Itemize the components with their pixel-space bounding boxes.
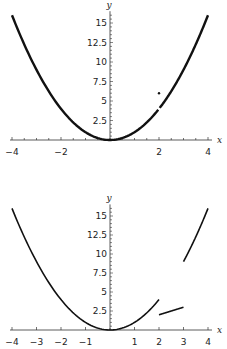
chart-top-parabola-with-hole: −4−224x2.557.51012.515y xyxy=(5,0,222,157)
x-tick-label: −1 xyxy=(79,337,92,347)
x-tick-label: 3 xyxy=(181,337,187,347)
x-tick-label: 2 xyxy=(156,337,162,347)
function-curve xyxy=(184,208,209,261)
x-tick-label: 4 xyxy=(205,147,211,157)
isolated-point xyxy=(158,92,160,94)
x-tick-label: 1 xyxy=(132,337,138,347)
y-tick-label: 2.5 xyxy=(93,306,107,316)
x-tick-label: 2 xyxy=(156,147,162,157)
function-curve xyxy=(12,208,159,330)
piecewise-function-charts: −4−224x2.557.51012.515y −4−3−2−11234x2.5… xyxy=(0,0,227,349)
x-tick-label: 4 xyxy=(205,337,211,347)
x-tick-label: −4 xyxy=(5,337,19,347)
x-tick-label: −3 xyxy=(30,337,43,347)
x-axis-label: x xyxy=(217,325,222,335)
y-tick-label: 12.5 xyxy=(87,230,107,240)
x-axis-label: x xyxy=(217,135,222,145)
y-tick-label: 12.5 xyxy=(87,38,107,48)
function-curve xyxy=(159,307,184,315)
y-axis-label: y xyxy=(105,0,112,10)
x-tick-label: −2 xyxy=(54,337,67,347)
function-curve xyxy=(160,15,208,108)
y-tick-label: 5 xyxy=(101,287,107,297)
y-axis-label: y xyxy=(105,193,112,203)
y-tick-label: 5 xyxy=(101,96,107,106)
chart-bottom-piecewise: −4−3−2−11234x2.557.51012.515y xyxy=(5,193,222,347)
y-tick-label: 10 xyxy=(96,57,108,67)
y-tick-label: 2.5 xyxy=(93,116,107,126)
function-curve xyxy=(12,15,158,140)
y-tick-label: 10 xyxy=(96,249,108,259)
y-tick-label: 7.5 xyxy=(93,268,107,278)
x-tick-label: −2 xyxy=(54,147,67,157)
x-tick-label: −4 xyxy=(5,147,19,157)
y-tick-label: 15 xyxy=(96,211,107,221)
y-tick-label: 7.5 xyxy=(93,77,107,87)
y-tick-label: 15 xyxy=(96,18,107,28)
